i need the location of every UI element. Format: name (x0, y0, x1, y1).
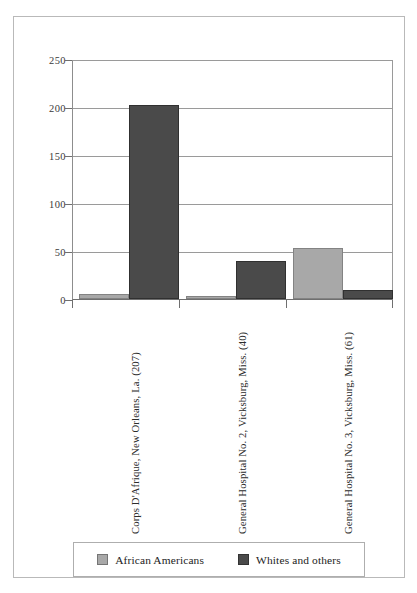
y-major-tick-100 (65, 204, 72, 205)
y-tick-label-50: 50 (28, 247, 66, 258)
bar-whites-and-others-general-hospital-2 (236, 261, 286, 299)
gridline-200 (73, 108, 392, 109)
y-major-tick-200 (65, 108, 72, 109)
x-axis-category-labels: Corps D'Afrique, New Orleans, La. (207) … (72, 309, 393, 534)
y-tick-label-200: 200 (28, 103, 66, 114)
x-tick-left-edge (72, 300, 73, 308)
x-label-corps-dafrique: Corps D'Afrique, New Orleans, La. (207) (130, 352, 141, 534)
x-tick-right-edge (392, 300, 393, 308)
chart-figure: 250 200 150 100 50 0 (0, 0, 417, 593)
bar-african-americans-corps-dafrique (79, 294, 129, 299)
y-major-tick-150 (65, 156, 72, 157)
bar-whites-and-others-general-hospital-3 (343, 290, 393, 299)
plot-area (72, 60, 393, 300)
y-major-tick-250 (65, 60, 72, 61)
gridline-100 (73, 204, 392, 205)
bar-african-americans-general-hospital-2 (186, 296, 236, 299)
chart-legend: African Americans Whites and others (73, 542, 365, 577)
legend-swatch-whites-and-others (238, 554, 249, 565)
figure-frame: 250 200 150 100 50 0 (13, 16, 405, 578)
bar-african-americans-general-hospital-3 (293, 248, 343, 299)
gridline-150 (73, 156, 392, 157)
legend-entry-whites-and-others: Whites and others (238, 554, 341, 566)
y-tick-label-150: 150 (28, 151, 66, 162)
y-tick-label-0: 0 (28, 295, 66, 306)
x-label-general-hospital-3: General Hospital No. 3, Vicksburg, Miss.… (343, 332, 354, 534)
x-label-general-hospital-2: General Hospital No. 2, Vicksburg, Miss.… (237, 332, 248, 534)
y-axis-tick-labels: 250 200 150 100 50 0 (28, 60, 66, 300)
legend-entries: African Americans Whites and others (74, 543, 364, 576)
x-tick-2 (286, 300, 287, 308)
x-axis-ticks (72, 300, 393, 308)
legend-swatch-african-americans (97, 554, 108, 565)
legend-entry-african-americans: African Americans (97, 554, 204, 566)
y-major-tick-50 (65, 252, 72, 253)
gridline-50 (73, 252, 392, 253)
legend-label-african-americans: African Americans (115, 554, 204, 566)
legend-label-whites-and-others: Whites and others (256, 554, 341, 566)
bar-whites-and-others-corps-dafrique (129, 105, 179, 299)
y-axis-major-ticks (65, 60, 72, 300)
x-tick-1 (179, 300, 180, 308)
y-tick-label-100: 100 (28, 199, 66, 210)
y-major-tick-0 (65, 300, 72, 301)
y-tick-label-250: 250 (28, 55, 66, 66)
